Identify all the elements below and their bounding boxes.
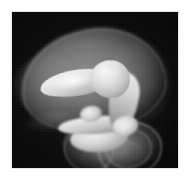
figure-root xyxy=(0,0,191,182)
render-noise-overlay xyxy=(12,12,178,168)
rendered-image-panel xyxy=(12,12,178,168)
